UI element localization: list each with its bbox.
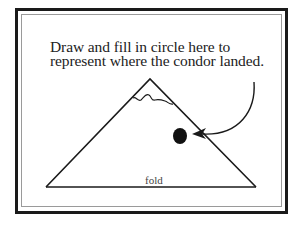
condor-landing-dot-icon [173, 128, 187, 144]
mountain-diagram [0, 0, 303, 225]
mountain-icon [46, 79, 256, 187]
fold-label: fold [145, 174, 163, 186]
curved-arrow-icon [192, 82, 254, 139]
